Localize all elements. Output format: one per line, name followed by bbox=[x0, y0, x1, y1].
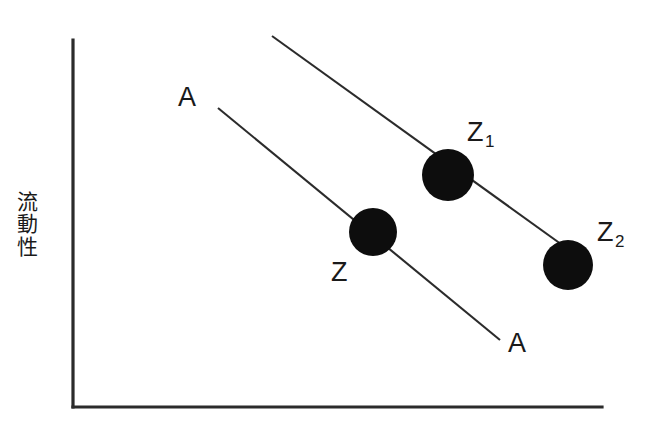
point-markers-group bbox=[349, 149, 593, 290]
label-point-z2: Z2 bbox=[597, 219, 624, 250]
point-marker-z bbox=[349, 208, 397, 256]
upper-schedule-line bbox=[272, 36, 572, 252]
label-point-z: Z bbox=[331, 259, 348, 286]
label-lower-schedule-right-a: A bbox=[508, 330, 527, 357]
label-point-z2-subscript: 2 bbox=[615, 232, 624, 251]
label-point-z2-base: Z bbox=[597, 217, 614, 247]
point-marker-z2 bbox=[543, 240, 593, 290]
label-point-z1: Z1 bbox=[467, 119, 494, 150]
label-point-z1-base: Z bbox=[467, 117, 484, 147]
label-point-z1-subscript: 1 bbox=[485, 132, 494, 151]
upper-schedule-group bbox=[272, 36, 572, 252]
y-axis-title: 流動性 bbox=[14, 191, 40, 258]
point-marker-z1 bbox=[422, 149, 474, 201]
liquidity-diagram-figure: 流動性 A A Z Z1 Z2 bbox=[0, 0, 650, 439]
diagram-canvas bbox=[0, 0, 650, 439]
label-lower-schedule-left-a: A bbox=[178, 84, 197, 111]
